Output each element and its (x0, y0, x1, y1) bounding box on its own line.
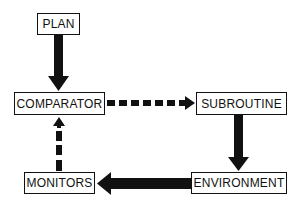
node-monitors: MONITORS (24, 172, 95, 194)
node-comparator: COMPARATOR (14, 92, 105, 115)
node-label: ENVIRONMENT (194, 176, 285, 190)
node-label: SUBROUTINE (201, 97, 282, 111)
arrow-comparator-to-subroutine (107, 96, 195, 110)
node-subroutine: SUBROUTINE (196, 92, 287, 115)
arrow-monitors-to-comparator (53, 117, 65, 171)
arrow-subroutine-to-environment (228, 115, 249, 171)
arrow-plan-to-comparator (48, 35, 69, 91)
node-label: MONITORS (26, 176, 92, 190)
node-plan: PLAN (37, 13, 80, 35)
node-label: PLAN (42, 17, 74, 31)
arrow-environment-to-monitors (97, 172, 191, 195)
node-label: COMPARATOR (16, 97, 102, 111)
node-environment: ENVIRONMENT (191, 172, 287, 194)
